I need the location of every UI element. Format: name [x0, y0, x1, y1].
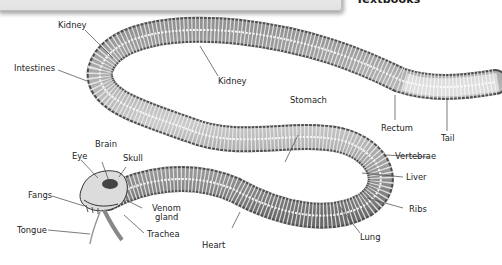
label-intestines: Intestines [14, 63, 55, 73]
label-trachea: Trachea [147, 229, 180, 239]
label-venom-gland-line2: gland [155, 212, 178, 222]
label-skull: Skull [123, 153, 143, 163]
snake-head [80, 171, 127, 244]
label-brain: Brain [95, 139, 117, 149]
label-vertebrae: Vertebrae [395, 151, 436, 161]
label-eye: Eye [72, 151, 87, 161]
label-heart: Heart [202, 240, 225, 250]
label-tongue: Tongue [17, 225, 47, 235]
label-kidney-upper: Kidney [58, 20, 87, 30]
label-fangs: Fangs [28, 190, 52, 200]
label-liver: Liver [406, 172, 427, 182]
label-lung: Lung [360, 232, 380, 242]
label-kidney-middle: Kidney [218, 76, 247, 86]
label-ribs: Ribs [409, 204, 427, 214]
label-rectum: Rectum [381, 123, 413, 133]
label-tail: Tail [441, 133, 455, 143]
label-stomach: Stomach [290, 95, 327, 105]
snake-skeleton-illustration [0, 0, 502, 265]
